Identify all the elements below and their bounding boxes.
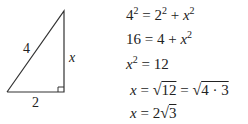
base-label: 2 [32, 96, 39, 110]
equation-4: x = √12 = √4 · 3 [130, 82, 229, 98]
equation-2: 16 = 4 + x2 [126, 32, 192, 47]
equation-3: x2 = 12 [126, 57, 169, 72]
right-angle-marker [58, 87, 64, 92]
vertical-leg-label: x [69, 51, 75, 65]
hypotenuse-label: 4 [23, 42, 30, 56]
equation-1: 42 = 22 + x2 [126, 8, 195, 23]
equation-5: x = 2√3 [130, 105, 176, 121]
right-triangle-diagram [0, 0, 124, 124]
